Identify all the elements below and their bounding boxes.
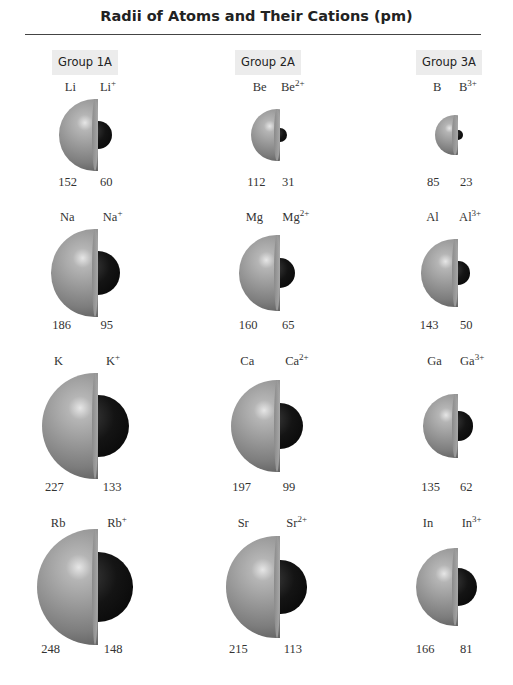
atom-sphere-al	[421, 239, 458, 306]
cation-radius-value: 113	[284, 642, 302, 657]
cation-charge: 2+	[297, 514, 307, 524]
atom-symbol: Na	[60, 210, 75, 225]
cation-radius-value: 31	[282, 175, 295, 190]
cation-sphere-li	[98, 121, 112, 149]
atom-radius-value: 197	[232, 480, 251, 495]
cation-element: Sr	[286, 516, 297, 530]
atom-radius-value: 135	[421, 480, 440, 495]
cation-charge: 3+	[472, 208, 482, 218]
group-2a-label: Group 2A	[235, 50, 301, 75]
atom-sphere-k	[42, 373, 98, 480]
cation-sphere-be	[280, 128, 287, 143]
cation-symbol: Sr2+	[286, 516, 307, 531]
atom-sphere-in	[416, 548, 458, 626]
cation-radius-value: 95	[101, 318, 114, 333]
atom-radius-value: 152	[58, 175, 77, 190]
figure-title: Radii of Atoms and Their Cations (pm)	[0, 8, 513, 24]
group-1a-label: Group 1A	[52, 50, 118, 75]
cation-element: In	[462, 516, 472, 530]
atom-symbol: Be	[253, 80, 267, 95]
cation-charge: +	[117, 208, 122, 218]
atom-symbol: Li	[65, 80, 76, 95]
atom-sphere-mg	[239, 235, 280, 310]
atom-sphere-sr	[226, 536, 280, 637]
cation-radius-value: 60	[100, 175, 113, 190]
cation-sphere-mg	[280, 258, 295, 289]
cation-symbol: Rb+	[107, 516, 127, 531]
cation-radius-value: 62	[460, 480, 473, 495]
cation-radius-value: 23	[460, 175, 473, 190]
cation-charge: 3+	[475, 352, 485, 362]
atom-sphere-rb	[37, 529, 98, 646]
cation-radius-value: 99	[283, 480, 296, 495]
atom-symbol: In	[423, 516, 433, 531]
cation-symbol: Li+	[100, 80, 116, 95]
atom-radius-value: 166	[416, 642, 435, 657]
cation-sphere-k	[98, 395, 129, 458]
cation-sphere-na	[98, 251, 120, 296]
cation-symbol: Ga3+	[460, 354, 484, 369]
title-divider	[25, 34, 481, 35]
cation-radius-value: 50	[460, 318, 473, 333]
cation-element: Li	[100, 80, 111, 94]
atom-radius-value: 248	[41, 642, 60, 657]
atom-symbol: K	[54, 354, 63, 369]
cation-symbol: K+	[106, 354, 120, 369]
cation-sphere-ga	[458, 411, 473, 440]
atom-sphere-ga	[423, 394, 458, 457]
atom-radius-value: 215	[229, 642, 248, 657]
cation-element: Ca	[285, 354, 299, 368]
atom-radius-value: 160	[239, 318, 258, 333]
cation-radius-value: 81	[460, 642, 473, 657]
atom-symbol: Mg	[246, 210, 263, 225]
cation-symbol: Na+	[103, 210, 123, 225]
cation-symbol: Al3+	[459, 210, 481, 225]
atom-radius-value: 143	[420, 318, 439, 333]
atom-sphere-na	[51, 229, 98, 316]
atom-symbol: Ca	[240, 354, 254, 369]
atom-sphere-be	[251, 109, 280, 162]
cation-element: Al	[459, 210, 472, 224]
atom-sphere-ca	[231, 380, 280, 473]
cation-symbol: In3+	[462, 516, 482, 531]
cation-sphere-ca	[280, 403, 303, 450]
cation-sphere-sr	[280, 560, 307, 613]
atom-symbol: Sr	[238, 516, 249, 531]
cation-element: Na	[103, 210, 118, 224]
atom-symbol: Ga	[427, 354, 442, 369]
atom-symbol: B	[433, 80, 441, 95]
atom-sphere-li	[59, 99, 98, 170]
cation-charge: 3+	[472, 514, 482, 524]
cation-charge: +	[122, 514, 127, 524]
atom-radius-value: 227	[45, 480, 64, 495]
cation-radius-value: 133	[103, 480, 122, 495]
cation-element: Be	[281, 80, 295, 94]
cation-radius-value: 65	[282, 318, 295, 333]
cation-sphere-al	[458, 261, 470, 285]
cation-element: Rb	[107, 516, 122, 530]
atom-symbol: Al	[426, 210, 439, 225]
cation-symbol: Ca2+	[285, 354, 308, 369]
cation-symbol: Mg2+	[282, 210, 309, 225]
atom-sphere-b	[435, 115, 458, 155]
cation-element: K	[106, 354, 115, 368]
cation-element: Mg	[282, 210, 299, 224]
cation-radius-value: 148	[104, 642, 123, 657]
atom-symbol: Rb	[51, 516, 66, 531]
cation-sphere-in	[458, 568, 477, 606]
cation-sphere-rb	[98, 552, 133, 622]
cation-charge: 2+	[299, 352, 309, 362]
cation-charge: 2+	[295, 78, 305, 88]
atom-radius-value: 85	[427, 175, 440, 190]
cation-symbol: B3+	[459, 80, 477, 95]
cation-charge: +	[111, 78, 116, 88]
cation-symbol: Be2+	[281, 80, 304, 95]
cation-sphere-b	[458, 130, 463, 141]
cation-element: Ga	[460, 354, 475, 368]
cation-charge: +	[115, 352, 120, 362]
cation-charge: 3+	[467, 78, 477, 88]
cation-charge: 2+	[300, 208, 310, 218]
atom-radius-value: 186	[52, 318, 71, 333]
group-3a-label: Group 3A	[416, 50, 482, 75]
atom-radius-value: 112	[247, 175, 265, 190]
